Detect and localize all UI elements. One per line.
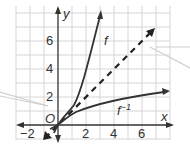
x-tick-label: 2	[82, 126, 89, 141]
grid	[16, 6, 170, 140]
origin-label: O	[45, 111, 55, 126]
y-tick-label: 2	[46, 89, 53, 104]
curve-f-inverse-arrow-icon	[162, 88, 170, 95]
x-tick-label: 6	[138, 126, 145, 141]
curve-f	[54, 16, 100, 133]
y-axis-arrow-up-icon	[55, 6, 61, 14]
y-tick-label: 4	[46, 61, 53, 76]
x-axis-label: x	[160, 109, 168, 124]
y-tick-label: 6	[46, 33, 53, 48]
curve-f-inverse-label: f−1	[117, 102, 131, 118]
y-tick-labels: 2 4 6	[46, 33, 53, 104]
x-tick-label: 4	[110, 126, 117, 141]
function-inverse-graph: −2 2 4 6 2 4 6 O y x f f−1	[0, 0, 190, 153]
x-tick-label: −2	[20, 126, 35, 141]
